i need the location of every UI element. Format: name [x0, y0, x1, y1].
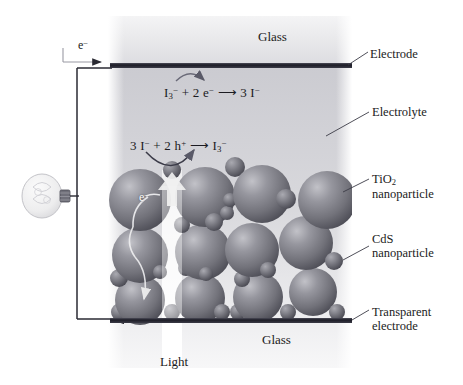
- cds-nanoparticle: [276, 189, 296, 209]
- label-cds-nanoparticle: CdS nanoparticle: [372, 232, 434, 260]
- label-glass-top: Glass: [258, 30, 287, 45]
- cds-nanoparticle: [260, 262, 276, 278]
- cds-nanoparticle: [280, 304, 296, 320]
- annotation-electron-particle: e−: [139, 190, 149, 205]
- eq-anode-r1: 3 I: [130, 138, 145, 153]
- light-beam-overlay: [162, 186, 182, 321]
- eq-anode-r1-sup: −: [145, 138, 150, 148]
- transparent-electrode-bar: [110, 318, 352, 323]
- tio2-nanoparticle: [298, 171, 356, 229]
- label-cds-formula: CdS: [372, 232, 394, 246]
- eq-cathode-plus: +: [182, 85, 190, 100]
- label-tio2-word: nanoparticle: [372, 187, 434, 201]
- label-transparent-word2: electrode: [372, 319, 418, 333]
- label-glass-bottom: Glass: [262, 333, 291, 348]
- eq-cathode-arrow: ⟶: [218, 85, 237, 100]
- eq-cathode-product-sup: −: [255, 85, 260, 95]
- cds-nanoparticle: [199, 267, 213, 281]
- equation-cathode: I3− + 2 e− ⟶ 3 I−: [164, 85, 260, 101]
- label-electrode: Electrode: [370, 47, 418, 61]
- eq-anode-r2-sup: +: [181, 138, 186, 148]
- eq-cathode-product: 3 I: [240, 85, 255, 100]
- eq-anode-r2: 2 h: [164, 138, 181, 153]
- glass-top-region: [108, 16, 352, 66]
- label-light: Light: [160, 355, 188, 370]
- equation-anode: 3 I− + 2 h+ ⟶ I3−: [130, 138, 227, 154]
- cds-nanoparticle: [214, 304, 230, 320]
- cds-nanoparticle: [325, 252, 343, 270]
- glass-bottom-region: [108, 319, 352, 368]
- label-tio2-nanoparticle: TiO2 nanoparticle: [372, 172, 434, 201]
- annotation-electron-circuit: e−: [78, 38, 88, 53]
- label-electrolyte: Electrolyte: [372, 105, 427, 119]
- cds-nanoparticle: [205, 213, 223, 231]
- light-bulb: [22, 174, 79, 218]
- label-tio2-formula: TiO: [372, 172, 392, 186]
- eq-cathode-r1-sup: −: [173, 85, 178, 95]
- electron-particle-charge: −: [144, 190, 149, 200]
- eq-cathode-r2: 2 e: [193, 85, 209, 100]
- leader-transparent-electrode: [352, 310, 369, 320]
- eq-cathode-r2-sup: −: [209, 85, 214, 95]
- bulb-glass: [22, 174, 62, 218]
- eq-anode-arrow: ⟶: [190, 138, 209, 153]
- electron-circuit-charge: −: [83, 38, 88, 48]
- eq-anode-product-sup: −: [222, 138, 227, 148]
- cds-nanoparticle: [220, 206, 234, 220]
- label-transparent-word1: Transparent: [372, 305, 431, 319]
- label-transparent-electrode: Transparent electrode: [372, 305, 431, 333]
- eq-anode-plus: +: [153, 138, 161, 153]
- diagram-canvas: Glass Glass Light Electrode Electrolyte …: [0, 0, 463, 385]
- label-tio2-subscript: 2: [392, 177, 396, 187]
- light-beam-arrow: [158, 172, 186, 321]
- top-electrode-bar: [110, 63, 352, 68]
- cds-nanoparticle: [329, 304, 345, 320]
- label-cds-word: nanoparticle: [372, 246, 434, 260]
